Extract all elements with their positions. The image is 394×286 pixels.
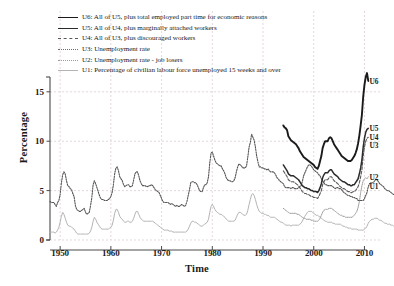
x-axis-label: Time <box>0 263 394 274</box>
legend-swatch-u2 <box>58 55 78 64</box>
y-tick-label: 0 <box>28 235 44 245</box>
x-tick-label: 1980 <box>203 248 221 258</box>
legend-item-u5[interactable]: U5: All of U4, plus marginally attached … <box>58 23 358 34</box>
legend-swatch-u5 <box>58 23 78 32</box>
series-end-label-u6: U6 <box>369 76 378 85</box>
legend-item-u1[interactable]: U1: Percentage of civilian labour force … <box>58 65 358 76</box>
legend-swatch-u4 <box>58 34 78 43</box>
y-tick-label: 5 <box>28 186 44 196</box>
legend-swatch-u6 <box>58 13 78 22</box>
legend-item-u4[interactable]: U4: All of U3, plus discouraged workers <box>58 33 358 44</box>
legend-label-u2: U2: Unemployment rate - job losers <box>82 56 183 64</box>
series-end-label-u2: U2 <box>369 172 378 181</box>
series-end-label-u5: U5 <box>369 124 378 133</box>
legend-label-u6: U6: All of U5, plus total employed part … <box>82 13 267 21</box>
legend-item-u3[interactable]: U3: Unemployment rate <box>58 44 358 55</box>
legend-label-u4: U4: All of U3, plus discouraged workers <box>82 34 195 42</box>
y-tick-label: 15 <box>28 87 44 97</box>
x-tick-label: 2010 <box>356 248 374 258</box>
y-tick-label: 10 <box>28 136 44 146</box>
legend-swatch-u1 <box>58 66 78 75</box>
legend-label-u1: U1: Percentage of civilian labour force … <box>82 66 281 74</box>
legend-item-u6[interactable]: U6: All of U5, plus total employed part … <box>58 12 358 23</box>
legend-item-u2[interactable]: U2: Unemployment rate - job losers <box>58 54 358 65</box>
x-tick-label: 1990 <box>254 248 272 258</box>
series-end-label-u3: U3 <box>369 141 378 150</box>
chart-legend: U6: All of U5, plus total employed part … <box>58 12 358 76</box>
legend-label-u5: U5: All of U4, plus marginally attached … <box>82 24 217 32</box>
x-tick-label: 1970 <box>153 248 171 258</box>
series-end-label-u1: U1 <box>369 181 378 190</box>
legend-swatch-u3 <box>58 45 78 54</box>
x-tick-label: 1960 <box>102 248 120 258</box>
chart-figure: U6: All of U5, plus total employed part … <box>0 0 394 286</box>
y-axis-label: Percentage <box>18 93 29 183</box>
x-tick-label: 2000 <box>305 248 323 258</box>
x-tick-label: 1950 <box>51 248 69 258</box>
legend-label-u3: U3: Unemployment rate <box>82 45 150 53</box>
